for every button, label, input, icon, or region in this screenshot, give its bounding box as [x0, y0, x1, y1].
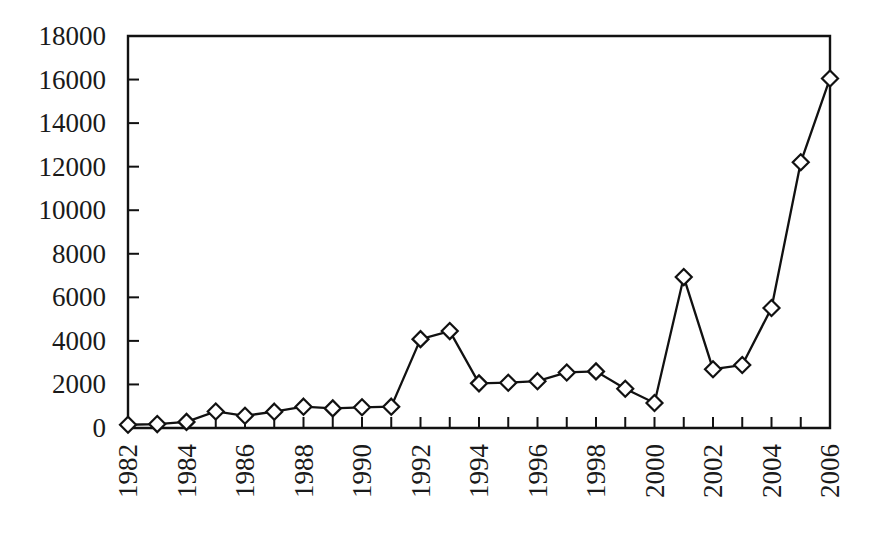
y-tick-label: 8000 — [52, 239, 106, 269]
y-tick-label: 16000 — [39, 65, 107, 95]
x-tick-label: 2000 — [640, 444, 670, 498]
y-tick-label: 10000 — [39, 195, 107, 225]
x-tick-label: 1990 — [347, 444, 377, 498]
x-tick-label: 2006 — [815, 444, 845, 498]
x-tick-label: 1984 — [172, 444, 202, 499]
x-tick-label: 1998 — [581, 444, 611, 498]
line-chart-canvas: 0200040006000800010000120001400016000180… — [0, 0, 876, 536]
x-tick-label: 1992 — [406, 444, 436, 498]
x-tick-label: 1982 — [113, 444, 143, 498]
y-tick-label: 2000 — [52, 369, 106, 399]
x-tick-label: 1994 — [464, 444, 494, 499]
y-tick-label: 0 — [93, 413, 107, 443]
x-tick-label: 1986 — [230, 444, 260, 498]
y-tick-label: 18000 — [39, 21, 107, 51]
y-tick-label: 14000 — [39, 108, 107, 138]
y-tick-label: 6000 — [52, 282, 106, 312]
y-tick-label: 4000 — [52, 326, 106, 356]
x-tick-label: 1996 — [523, 444, 553, 498]
x-tick-label: 2004 — [757, 444, 787, 499]
x-tick-label: 1988 — [289, 444, 319, 498]
x-tick-label: 2002 — [698, 444, 728, 498]
chart-figure: 0200040006000800010000120001400016000180… — [0, 0, 876, 536]
y-tick-label: 12000 — [39, 152, 107, 182]
